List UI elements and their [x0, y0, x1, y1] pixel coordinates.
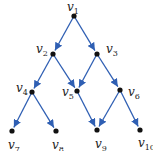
directed-graph-diagram: v1v2v3v4v5v6v7v8v9v10: [0, 0, 153, 151]
edge-v3-v5: [79, 54, 97, 87]
node-v10: [137, 127, 142, 132]
label-v8: v8: [52, 138, 64, 151]
label-v4: v4: [16, 81, 28, 97]
label-v3: v3: [106, 42, 118, 58]
node-v9: [94, 127, 99, 132]
node-v5: [74, 88, 79, 93]
node-v8: [53, 128, 58, 133]
edge-v6-v9: [99, 90, 120, 127]
node-v4: [29, 89, 34, 94]
label-v7: v7: [8, 138, 20, 151]
edge-v5-v9: [77, 91, 95, 126]
edge-v2-v5: [53, 54, 75, 88]
node-v7: [9, 128, 14, 133]
label-v9: v9: [95, 137, 107, 151]
label-v5: v5: [62, 85, 74, 101]
edges-group: [14, 16, 138, 128]
labels-group: v1v2v3v4v5v6v7v8v9v10: [8, 0, 153, 151]
edge-v1-v3: [74, 16, 95, 51]
edge-v2-v4: [34, 54, 53, 88]
edge-v3-v6: [97, 54, 118, 87]
node-v6: [117, 87, 122, 92]
node-v2: [50, 51, 55, 56]
edge-v4-v8: [32, 92, 54, 128]
nodes-group: [9, 13, 142, 133]
label-v1: v1: [67, 0, 79, 16]
node-v3: [94, 51, 99, 56]
edge-v1-v2: [55, 16, 74, 50]
label-v10: v10: [138, 136, 153, 151]
label-v6: v6: [128, 85, 140, 101]
label-v2: v2: [36, 42, 48, 58]
edge-v4-v7: [14, 92, 32, 127]
